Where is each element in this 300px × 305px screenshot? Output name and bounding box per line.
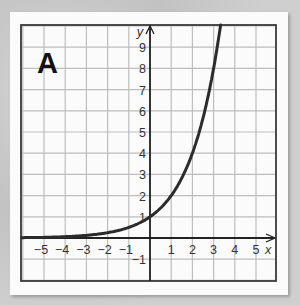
y-tick-label: −1 — [132, 253, 146, 267]
y-tick-label: 8 — [139, 62, 146, 76]
y-tick-label: 4 — [139, 147, 146, 161]
x-tick-label: 1 — [168, 243, 175, 257]
x-tick-label: 3 — [210, 243, 217, 257]
y-tick-label: 9 — [139, 41, 146, 55]
x-axis-label: x — [264, 243, 272, 257]
y-tick-label: 2 — [139, 190, 146, 204]
x-tick-label: −2 — [97, 243, 111, 257]
y-tick-label: 5 — [139, 126, 146, 140]
y-tick-label: 6 — [139, 105, 146, 119]
y-tick-label: 7 — [139, 84, 146, 98]
panel-label: A — [37, 47, 58, 79]
x-tick-label: 5 — [253, 243, 260, 257]
x-tick-label: 2 — [189, 243, 196, 257]
y-tick-label: 3 — [139, 168, 146, 182]
x-tick-label: −3 — [76, 243, 90, 257]
exponential-graph: −5−4−3−2−112345−1123456789xyA — [0, 0, 300, 305]
x-tick-label: −4 — [55, 243, 69, 257]
x-tick-label: −5 — [34, 243, 48, 257]
x-tick-label: 4 — [231, 243, 238, 257]
